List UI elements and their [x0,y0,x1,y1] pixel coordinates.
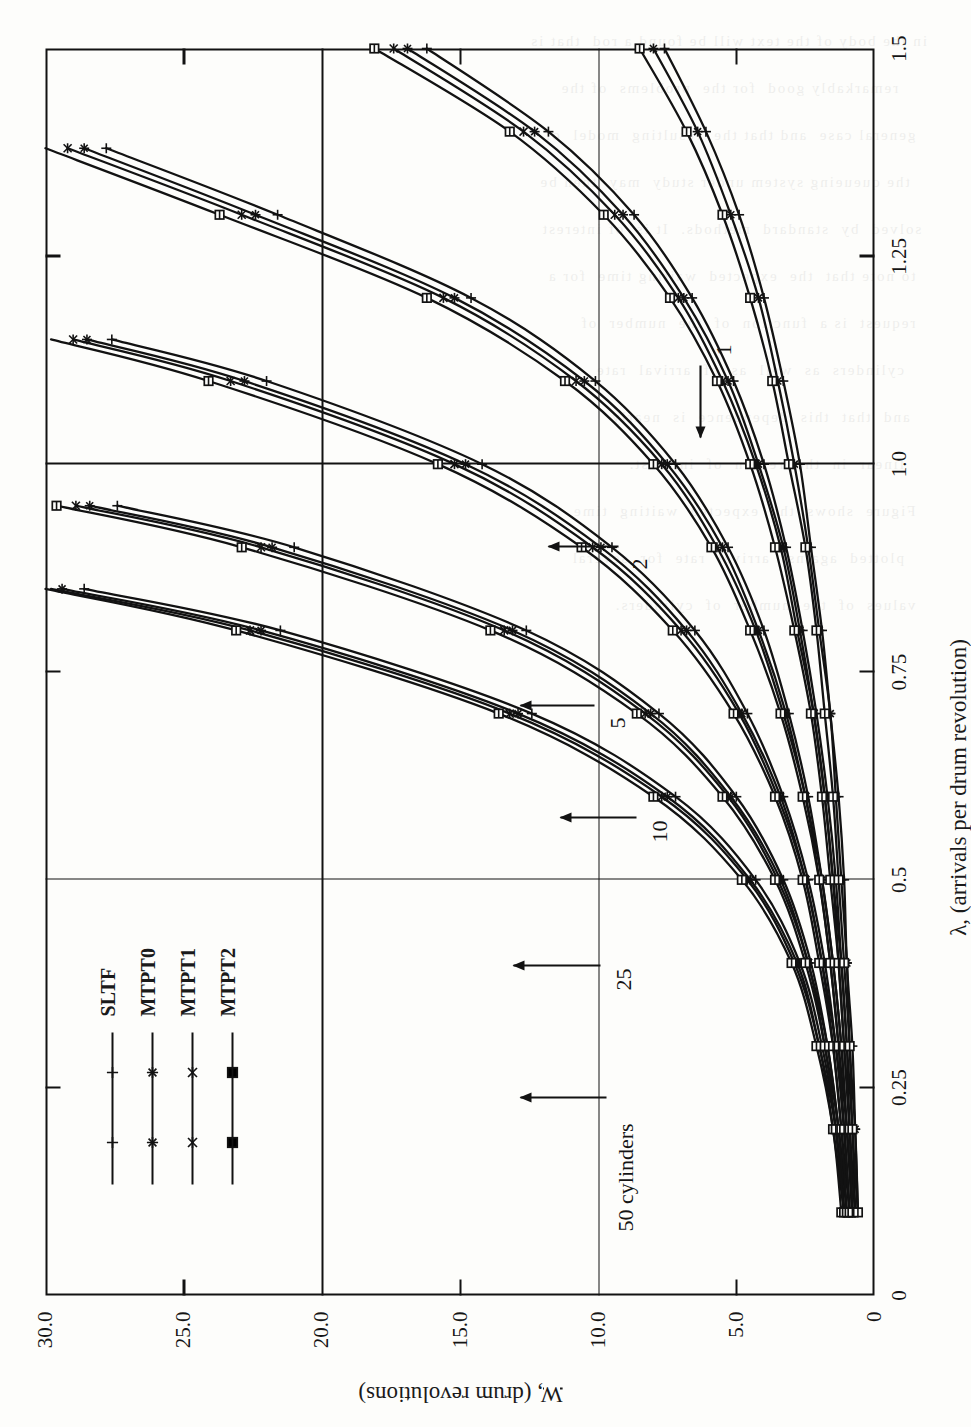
y-axis-title-units: , (drum revolutions) [358,1381,543,1406]
x-axis-title: λ, (arrivals per drum revolution) [945,639,971,936]
y-axis-title: W, (drum revolutions) [358,1380,562,1406]
y-axis-title-symbol: W [543,1381,563,1406]
